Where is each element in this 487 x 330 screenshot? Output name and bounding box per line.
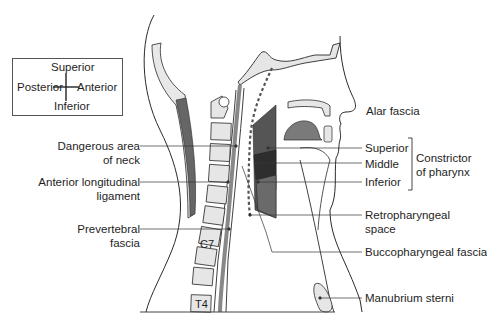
face-profile	[330, 36, 362, 312]
mandible-incisor	[324, 126, 332, 142]
label-superior-constrictor: Superior	[365, 141, 408, 155]
label-alar-fascia: Alar fascia	[366, 104, 420, 118]
tongue	[284, 121, 322, 140]
orientation-legend: Superior Posterior Anterior Inferior	[12, 58, 123, 116]
label-inferior-constrictor: Inferior	[365, 175, 401, 189]
label-retropharyngeal-space: Retropharyngeal space	[365, 208, 450, 236]
orientation-anterior: Anterior	[77, 80, 117, 94]
compass-cross-icon	[53, 73, 79, 101]
label-prevertebral-fascia: Prevertebral fascia	[77, 222, 140, 250]
orientation-inferior: Inferior	[54, 99, 90, 113]
label-middle-constrictor: Middle	[365, 157, 399, 171]
constrictor-bracket	[408, 138, 412, 190]
label-dangerous-area: Dangerous area of neck	[58, 139, 140, 167]
vertebra-label-t4: T4	[195, 297, 208, 311]
label-manubrium-sterni: Manubrium sterni	[365, 291, 454, 305]
orientation-superior: Superior	[51, 60, 94, 74]
label-buccopharyngeal-fascia: Buccopharyngeal fascia	[365, 245, 487, 259]
posterior-neck-outline	[144, 15, 180, 312]
vertebral-column	[191, 96, 232, 312]
skull-base	[238, 43, 340, 85]
vertebra-label-c7: C7	[200, 237, 214, 251]
label-anterior-longitudinal-ligament: Anterior longitudinal ligament	[38, 175, 140, 203]
jaw-line	[300, 148, 330, 231]
label-constrictor-of-pharynx: Constrictor of pharynx	[416, 151, 472, 179]
hard-palate	[288, 100, 330, 116]
